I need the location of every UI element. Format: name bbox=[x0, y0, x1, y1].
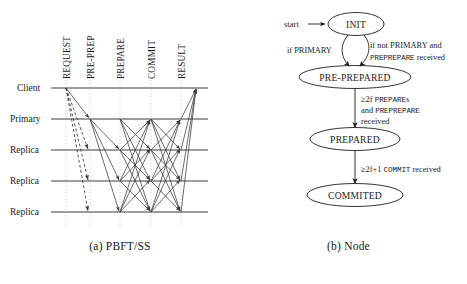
commit-messages bbox=[151, 119, 180, 212]
transition-if-not-primary-label-line2: PREPREPARE received bbox=[370, 53, 446, 62]
state-init-label: INIT bbox=[346, 19, 366, 30]
transition-if-primary-label: if PRIMARY bbox=[287, 46, 332, 55]
transition-if-primary-arrow bbox=[342, 35, 349, 66]
row-label-replica-3: Replica bbox=[10, 207, 40, 217]
column-label-commit: COMMIT bbox=[147, 40, 157, 79]
transition-prepares-label-line1: ≥2f PREPAREs bbox=[361, 95, 409, 104]
column-label-prepare: PREPARE bbox=[116, 38, 126, 79]
t1-seg2: PRIMARY bbox=[390, 41, 428, 50]
transition-if-primary-text: if PRIMARY bbox=[287, 46, 332, 55]
transition-prepared-to-commited: ≥2f+1 COMMIT received bbox=[355, 151, 442, 183]
timelines bbox=[51, 88, 208, 212]
transition-if-not-primary-label-line1: if not PRIMARY and bbox=[370, 41, 442, 50]
caption-pbft-ss: (a) PBFT/SS bbox=[0, 240, 240, 252]
transition-prepares-label-line3: received bbox=[361, 117, 390, 126]
start-transition: start bbox=[284, 19, 325, 29]
state-pre-prepared: PRE-PREPARED bbox=[299, 66, 411, 89]
msg-result-r2-client bbox=[181, 89, 196, 181]
transition-commit-label: ≥2f+1 COMMIT received bbox=[361, 165, 442, 174]
panel-node: start INIT if PRIMARY if not PRIMARY and bbox=[230, 0, 467, 284]
transition-init-to-preprepared: if PRIMARY if not PRIMARY and PREPREPARE… bbox=[287, 35, 446, 66]
column-label-request: REQUEST bbox=[62, 36, 72, 79]
transition-prepares-label-line2: and PREPREPARE bbox=[361, 106, 420, 115]
row-label-replica-2: Replica bbox=[10, 176, 40, 186]
caption-node: (b) Node bbox=[230, 240, 467, 252]
state-commited-label: COMMITED bbox=[328, 190, 382, 201]
pre-prepare-messages bbox=[90, 119, 119, 211]
t1-seg1: if not bbox=[370, 41, 390, 50]
msg-request-client-primary bbox=[66, 88, 89, 118]
transition-preprepared-to-prepared: ≥2f PREPAREs and PREPREPARE received bbox=[355, 89, 420, 127]
column-labels: REQUEST PRE-PREP PREPARE COMMIT RESULT bbox=[62, 35, 187, 79]
start-label: start bbox=[284, 19, 299, 29]
column-label-result: RESULT bbox=[177, 44, 187, 79]
t2-seg1: ≥2f bbox=[361, 95, 375, 104]
prepare-messages bbox=[120, 119, 150, 212]
row-label-primary: Primary bbox=[10, 114, 41, 124]
state-prepared: PREPARED bbox=[310, 128, 400, 151]
transition-if-not-primary-arrow bbox=[360, 35, 369, 66]
t2-seg4: and bbox=[361, 106, 375, 115]
t3-seg3: received bbox=[410, 165, 441, 174]
row-labels: Client Primary Replica Replica Replica bbox=[10, 83, 41, 217]
t1-seg3: and bbox=[427, 41, 442, 50]
row-label-replica-1: Replica bbox=[10, 145, 40, 155]
figure-root: REQUEST PRE-PREP PREPARE COMMIT RESULT C… bbox=[0, 0, 467, 284]
t2-seg2: PREPARE bbox=[375, 96, 407, 104]
state-pre-prepared-label: PRE-PREPARED bbox=[319, 72, 390, 83]
msg-preprepare-primary-replica-3 bbox=[90, 119, 119, 211]
state-prepared-label: PREPARED bbox=[330, 134, 380, 145]
t3-seg1: ≥2f+1 bbox=[361, 165, 384, 174]
row-label-client: Client bbox=[17, 83, 41, 93]
t2-seg6: received bbox=[361, 117, 390, 126]
t2-seg5: PREPREPARE bbox=[375, 107, 420, 115]
state-init: INIT bbox=[328, 13, 384, 36]
panel-pbft-ss: REQUEST PRE-PREP PREPARE COMMIT RESULT C… bbox=[0, 0, 240, 284]
state-commited: COMMITED bbox=[307, 184, 403, 207]
t3-seg2: COMMIT bbox=[384, 166, 411, 174]
t1-seg5: received bbox=[415, 53, 446, 62]
column-label-pre-prep: PRE-PREP bbox=[86, 35, 96, 79]
t2-seg3: s bbox=[406, 95, 409, 104]
t1-seg4: PREPREPARE bbox=[370, 54, 415, 62]
